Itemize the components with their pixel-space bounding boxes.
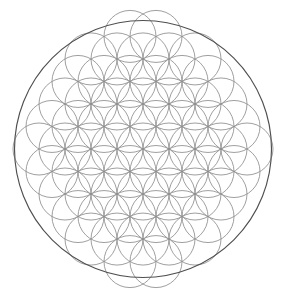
flower-of-life-diagram bbox=[0, 0, 286, 297]
grid-circles-layer bbox=[13, 10, 273, 287]
figure-canvas: Flower of Life bbox=[0, 0, 286, 297]
